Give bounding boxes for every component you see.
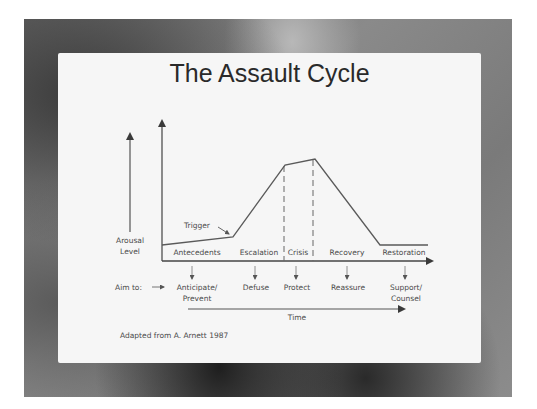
trigger-arrow (218, 227, 229, 234)
aim-label: Aim to: (115, 283, 142, 292)
phase-restoration: Restoration (383, 248, 426, 257)
aim-defuse: Defuse (243, 283, 270, 292)
phase-recovery: Recovery (330, 248, 365, 257)
phase-antecedents: Antecedents (173, 248, 220, 257)
aim-support: Support/ (390, 283, 423, 292)
arousal-label-line1: Arousal (116, 236, 144, 245)
arousal-curve (162, 159, 428, 245)
source-note: Adapted from A. Arnett 1987 (120, 331, 228, 340)
aim-counsel: Counsel (391, 294, 421, 303)
aim-reassure: Reassure (331, 283, 366, 292)
phase-escalation: Escalation (240, 248, 279, 257)
aim-anticipate: Anticipate/ (177, 283, 218, 292)
aim-protect: Protect (284, 283, 311, 292)
time-label: Time (287, 313, 307, 322)
trigger-label: Trigger (183, 221, 211, 230)
arousal-label-line2: Level (120, 247, 140, 256)
aim-prevent: Prevent (183, 294, 212, 303)
assault-cycle-diagram: Arousal Level Trigger Antecedents Escala… (0, 0, 537, 409)
phase-crisis: Crisis (288, 248, 308, 257)
